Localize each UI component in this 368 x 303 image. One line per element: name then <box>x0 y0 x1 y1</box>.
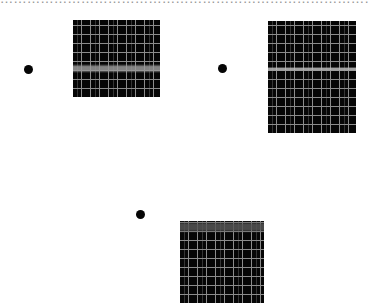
cropped-header-text: ……………………………………………………………………………………… <box>0 0 368 6</box>
grid-pattern-2 <box>268 21 356 133</box>
luminance-band <box>73 64 160 73</box>
grid-pattern-1 <box>73 20 160 97</box>
grid-lines <box>180 221 264 303</box>
fixation-dot <box>136 210 145 219</box>
fixation-dot <box>218 64 227 73</box>
fixation-dot <box>24 65 33 74</box>
grid-lines <box>268 21 356 133</box>
grid-lines <box>73 20 160 97</box>
luminance-band <box>180 221 264 233</box>
grid-pattern-3 <box>180 221 264 303</box>
luminance-band <box>268 67 356 71</box>
